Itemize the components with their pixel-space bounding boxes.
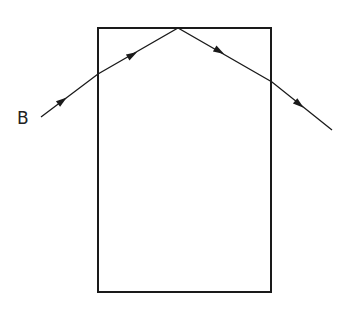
ray-diagram bbox=[0, 0, 349, 312]
light-ray bbox=[41, 28, 332, 130]
arrow-icon bbox=[126, 49, 139, 61]
arrow-icon bbox=[213, 45, 226, 57]
glass-block bbox=[98, 28, 271, 292]
ray-label: B bbox=[17, 108, 29, 128]
